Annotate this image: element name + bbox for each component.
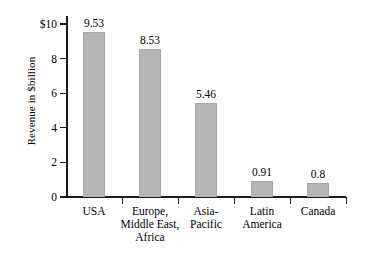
x-tick-3 bbox=[234, 197, 235, 204]
bar-value-label-4: 0.8 bbox=[311, 168, 325, 180]
y-tick-label-6: 6 bbox=[51, 87, 57, 99]
y-tick-label-2: 2 bbox=[51, 156, 57, 168]
y-axis-title: Revenue in $billion bbox=[25, 21, 37, 181]
y-tick-2 bbox=[60, 162, 67, 163]
y-tick-8 bbox=[60, 58, 67, 59]
x-tick-5 bbox=[346, 197, 347, 204]
bar-2 bbox=[195, 103, 217, 197]
y-tick-6 bbox=[60, 93, 67, 94]
bar-4 bbox=[307, 183, 329, 197]
x-tick-4 bbox=[290, 197, 291, 204]
x-axis-label-line: Africa bbox=[104, 231, 196, 244]
y-tick-label-0: 0 bbox=[51, 191, 57, 203]
x-tick-1 bbox=[122, 197, 123, 204]
bar-0 bbox=[83, 32, 105, 197]
plot-area: 02468$10 9.538.535.460.910.8 USAEurope,M… bbox=[66, 16, 346, 197]
bar-chart: Revenue in $billion 02468$10 9.538.535.4… bbox=[0, 0, 368, 253]
y-tick-label-8: 8 bbox=[51, 53, 57, 65]
y-tick-label-10: $10 bbox=[40, 18, 57, 30]
y-tick-4 bbox=[60, 127, 67, 128]
bar-value-label-0: 9.53 bbox=[84, 17, 104, 29]
bar-value-label-3: 0.91 bbox=[252, 166, 272, 178]
x-axis-label-4: Canada bbox=[272, 205, 364, 218]
bar-1 bbox=[139, 49, 161, 197]
x-axis-label-line: Canada bbox=[272, 205, 364, 218]
y-axis-line bbox=[66, 16, 68, 197]
bar-3 bbox=[251, 181, 273, 197]
bar-value-label-1: 8.53 bbox=[140, 34, 160, 46]
bar-value-label-2: 5.46 bbox=[196, 88, 216, 100]
y-tick-label-4: 4 bbox=[51, 122, 57, 134]
y-tick-10 bbox=[60, 23, 67, 24]
x-axis-label-line: America bbox=[216, 218, 308, 231]
y-tick-0 bbox=[60, 196, 67, 197]
x-tick-2 bbox=[178, 197, 179, 204]
